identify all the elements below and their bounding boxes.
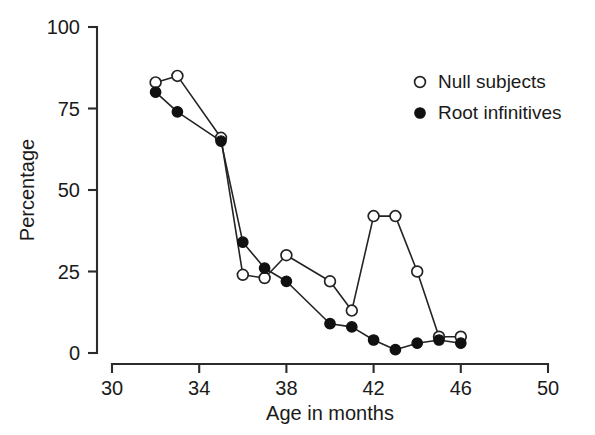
data-point bbox=[150, 77, 161, 88]
x-axis-ticks: 303438424650 bbox=[101, 364, 559, 399]
x-tick-label: 38 bbox=[275, 377, 297, 399]
y-tick-label: 75 bbox=[58, 98, 80, 120]
data-point bbox=[281, 276, 291, 286]
data-point bbox=[368, 335, 378, 345]
data-point bbox=[412, 338, 422, 348]
data-point bbox=[390, 345, 400, 355]
data-point bbox=[259, 273, 270, 284]
y-tick-label: 25 bbox=[58, 261, 80, 283]
x-tick-label: 50 bbox=[537, 377, 559, 399]
y-tick-label: 100 bbox=[47, 16, 80, 38]
data-point bbox=[368, 211, 379, 222]
y-tick-label: 50 bbox=[58, 179, 80, 201]
data-point bbox=[237, 269, 248, 280]
data-point bbox=[281, 250, 292, 261]
x-tick-label: 30 bbox=[101, 377, 123, 399]
data-point bbox=[347, 322, 357, 332]
data-point bbox=[346, 305, 357, 316]
y-axis-title: Percentage bbox=[16, 139, 38, 241]
legend-label: Null subjects bbox=[438, 71, 546, 92]
data-point bbox=[325, 276, 336, 287]
legend: Null subjectsRoot infinitives bbox=[415, 71, 562, 123]
series-polyline bbox=[156, 92, 461, 350]
legend-marker-open-circle bbox=[415, 77, 426, 88]
data-point bbox=[325, 319, 335, 329]
data-point bbox=[456, 338, 466, 348]
x-axis-title: Age in months bbox=[266, 402, 394, 424]
x-tick-label: 34 bbox=[188, 377, 210, 399]
legend-marker-filled-circle bbox=[415, 108, 425, 118]
data-point bbox=[238, 237, 248, 247]
markers-filled-circle bbox=[150, 87, 466, 355]
data-point bbox=[216, 136, 226, 146]
data-point bbox=[150, 87, 160, 97]
data-point bbox=[390, 211, 401, 222]
data-point bbox=[412, 266, 423, 277]
data-point bbox=[172, 107, 182, 117]
x-tick-label: 46 bbox=[450, 377, 472, 399]
data-point bbox=[434, 335, 444, 345]
series-filled-circle bbox=[156, 92, 461, 350]
data-point bbox=[259, 263, 269, 273]
chart-figure: 0255075100 303438424650 Percentage Age i… bbox=[0, 0, 595, 435]
y-axis-ticks: 0255075100 bbox=[47, 16, 97, 364]
data-point bbox=[172, 71, 183, 82]
legend-label: Root infinitives bbox=[438, 102, 562, 123]
x-tick-label: 42 bbox=[362, 377, 384, 399]
y-tick-label: 0 bbox=[69, 342, 80, 364]
